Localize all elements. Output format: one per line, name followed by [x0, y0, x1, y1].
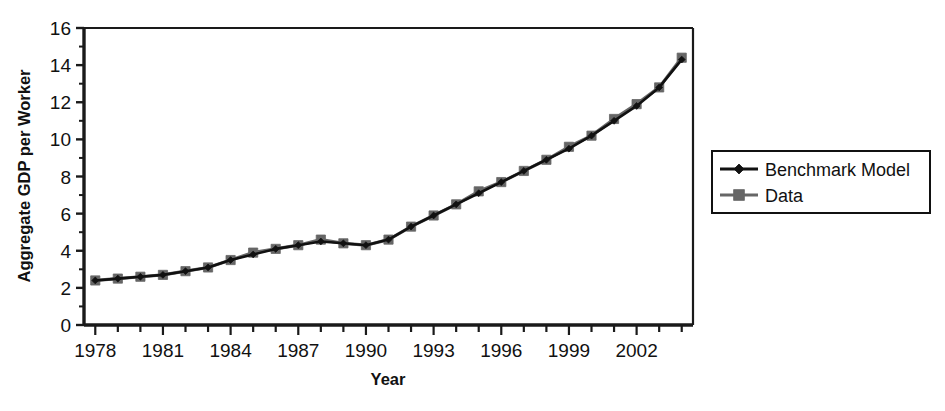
- x-axis-tick-label: 1978: [74, 340, 116, 361]
- x-axis-tick-label: 1993: [412, 340, 454, 361]
- y-axis-tick-label: 2: [60, 278, 71, 299]
- x-axis-tick-label: 2002: [615, 340, 657, 361]
- x-axis-tick-label: 1999: [548, 340, 590, 361]
- chart-legend: Benchmark ModelData: [712, 151, 930, 213]
- y-axis-tick-label: 8: [60, 167, 71, 188]
- y-axis-tick-label: 6: [60, 204, 71, 225]
- x-axis-tick-label: 1990: [345, 340, 387, 361]
- y-axis-tick-label: 14: [50, 55, 72, 76]
- x-axis-tick-label: 1981: [142, 340, 184, 361]
- x-axis-tick-label: 1984: [209, 340, 252, 361]
- legend-label: Benchmark Model: [765, 160, 910, 180]
- x-axis-tick-label: 1987: [277, 340, 319, 361]
- x-axis-tick-label: 1996: [480, 340, 522, 361]
- legend-square-marker: [734, 190, 745, 201]
- gdp-per-worker-line-chart: Aggregate GDP per Worker 0246810121416 1…: [0, 0, 945, 411]
- y-axis-tick-label: 4: [60, 241, 71, 262]
- y-axis-tick-label: 12: [50, 92, 71, 113]
- y-axis-title: Aggregate GDP per Worker: [15, 69, 33, 283]
- y-axis-tick-label: 16: [50, 18, 71, 39]
- y-axis-tick-label: 0: [60, 315, 71, 336]
- x-axis-title: Year: [371, 370, 406, 388]
- y-axis-tick-label: 10: [50, 129, 71, 150]
- legend-label: Data: [765, 186, 804, 206]
- chart-figure: Aggregate GDP per Worker 0246810121416 1…: [0, 0, 945, 411]
- x-axis-tick-labels: 197819811984198719901993199619992002: [74, 340, 658, 361]
